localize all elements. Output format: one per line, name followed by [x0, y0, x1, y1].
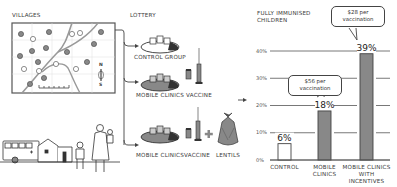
annotation-unit: vaccination [292, 85, 338, 92]
bar-value-label: 39% [356, 44, 376, 53]
annotation-cost: $56 per [292, 78, 338, 85]
category-label: WITH [359, 172, 375, 178]
y-tick-label: 40% [256, 49, 267, 54]
y-tick-label: 30% [256, 76, 267, 81]
annotation-unit: vaccination [335, 16, 381, 23]
y-tick-label: 20% [256, 103, 267, 108]
bar [318, 111, 331, 160]
annotation-cost: $28 per [335, 9, 381, 16]
y-tick-label: 10% [256, 130, 267, 135]
bar [360, 54, 373, 160]
annotation-bubble: $28 pervaccination [331, 6, 385, 27]
category-label: CLINICS [313, 172, 336, 178]
annotation-bubble: $56 pervaccination [288, 75, 342, 96]
annotation-pointer [349, 28, 357, 40]
category-label: INCENTIVES [349, 179, 384, 185]
bar [278, 144, 291, 160]
y-tick-label: 0% [256, 158, 264, 163]
bar-value-label: 6% [277, 134, 291, 143]
bar-value-label: 18% [314, 101, 334, 110]
category-label: CONTROL [270, 165, 299, 171]
category-label: MOBILE [313, 165, 336, 171]
category-label: MOBILE CLINICS [343, 165, 391, 171]
